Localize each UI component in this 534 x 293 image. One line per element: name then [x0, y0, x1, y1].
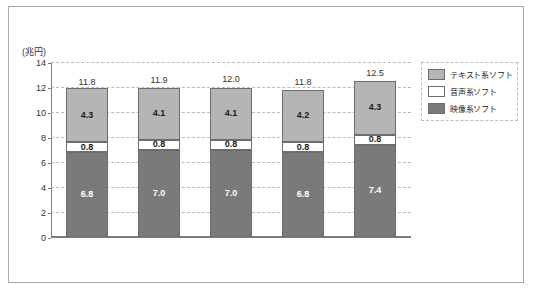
legend-swatch-audio: [428, 86, 445, 97]
gridline: 0: [51, 237, 411, 238]
bar-segment-value-label: 7.0: [153, 189, 166, 198]
plot-area-wrapper: 02468101214 6.80.84.311.82017年7.00.84.11…: [51, 62, 411, 237]
legend-item-label: 映像系ソフト: [450, 103, 497, 114]
bar-segment-value-label: 4.3: [369, 103, 382, 112]
bar-total-label: 11.9: [151, 75, 168, 85]
legend-rows: テキスト系ソフト音声系ソフト映像系ソフト: [428, 69, 512, 114]
bar-segment[interactable]: 0.8: [210, 140, 252, 150]
bar-group[interactable]: 7.00.84.112.02019年: [210, 87, 252, 237]
bar-segment-value-label: 0.8: [153, 140, 166, 149]
bar-segment[interactable]: 7.0: [138, 150, 180, 238]
bar-segment-value-label: 4.2: [297, 111, 310, 120]
chart-screenshot: (兆円) 02468101214 6.80.84.311.82017年7.00.…: [0, 0, 534, 293]
bar-segment[interactable]: 0.8: [354, 135, 396, 145]
bar-segment[interactable]: 7.4: [354, 145, 396, 238]
bar-segment[interactable]: 4.2: [282, 90, 324, 143]
bar-group[interactable]: 7.40.84.312.52021年: [354, 81, 396, 237]
y-axis-tick-label: 8: [41, 133, 46, 143]
bar-total-label: 12.0: [222, 74, 240, 84]
bar-segment[interactable]: 4.3: [66, 88, 108, 142]
legend-swatch-text: [428, 69, 445, 80]
bar-segment-value-label: 7.0: [225, 189, 238, 198]
legend-item[interactable]: 映像系ソフト: [428, 103, 512, 114]
bar-group[interactable]: 7.00.84.111.92018年: [138, 88, 180, 237]
bar-segment-value-label: 0.8: [297, 143, 310, 152]
bar-total-label: 12.5: [366, 68, 384, 78]
y-axis-tick-label: 2: [41, 208, 46, 218]
bar-total-label: 11.8: [79, 77, 96, 87]
bar-segment-value-label: 0.8: [225, 140, 238, 149]
bar-segment[interactable]: 0.8: [138, 140, 180, 150]
bar-group[interactable]: 6.80.84.211.82020年: [282, 90, 324, 238]
y-axis-tick-mark: [48, 238, 51, 239]
bar-segment[interactable]: 4.1: [210, 88, 252, 139]
bars-layer: 6.80.84.311.82017年7.00.84.111.92018年7.00…: [51, 62, 411, 237]
bar-segment-value-label: 7.4: [369, 186, 382, 195]
legend-item[interactable]: 音声系ソフト: [428, 86, 512, 97]
bar-segment[interactable]: 4.1: [138, 88, 180, 139]
bar-segment[interactable]: 0.8: [66, 142, 108, 152]
bar-segment-value-label: 6.8: [81, 190, 94, 199]
bar-segment[interactable]: 6.8: [282, 152, 324, 237]
bar-segment-value-label: 0.8: [369, 135, 382, 144]
y-axis-tick-label: 12: [36, 83, 46, 93]
legend-item-label: 音声系ソフト: [450, 86, 497, 97]
bar-group[interactable]: 6.80.84.311.82017年: [66, 90, 108, 238]
bar-segment-value-label: 4.1: [225, 109, 238, 118]
bar-segment-value-label: 0.8: [81, 143, 94, 152]
legend-item[interactable]: テキスト系ソフト: [428, 69, 512, 80]
bar-segment-value-label: 6.8: [297, 190, 310, 199]
legend-item-label: テキスト系ソフト: [450, 69, 512, 80]
y-axis-tick-label: 0: [41, 233, 46, 243]
bar-segment-value-label: 4.3: [81, 111, 94, 120]
y-axis-tick-label: 14: [36, 58, 46, 68]
y-axis-tick-label: 4: [41, 183, 46, 193]
bar-segment[interactable]: 0.8: [282, 142, 324, 152]
bar-segment[interactable]: 7.0: [210, 150, 252, 238]
bar-segment[interactable]: 4.3: [354, 81, 396, 135]
y-axis-tick-label: 10: [36, 108, 46, 118]
bar-total-label: 11.8: [295, 77, 312, 87]
y-axis-tick-label: 6: [41, 158, 46, 168]
bar-segment-value-label: 4.1: [153, 109, 166, 118]
legend: テキスト系ソフト音声系ソフト映像系ソフト: [421, 62, 518, 121]
legend-swatch-video: [428, 103, 445, 114]
bar-segment[interactable]: 6.8: [66, 152, 108, 237]
y-axis-unit-label: (兆円): [22, 45, 46, 58]
